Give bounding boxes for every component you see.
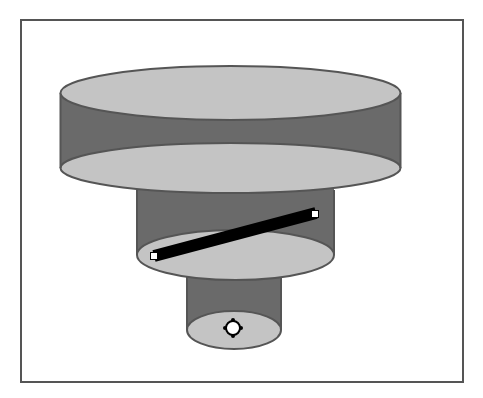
center-handle-dot-top: [231, 318, 235, 322]
center-handle-dot-left: [223, 326, 227, 330]
top-cylinder: [61, 66, 401, 193]
top-cylinder-bottom-face: [61, 143, 401, 193]
center-handle-circle[interactable]: [226, 321, 240, 335]
bar-handle-right[interactable]: [312, 211, 319, 218]
top-cylinder-top-face: [61, 66, 401, 120]
center-handle-dot-bottom: [231, 334, 235, 338]
cylinder-diagram: [0, 0, 483, 398]
center-handle-dot-right: [239, 326, 243, 330]
bar-handle-left[interactable]: [151, 253, 158, 260]
